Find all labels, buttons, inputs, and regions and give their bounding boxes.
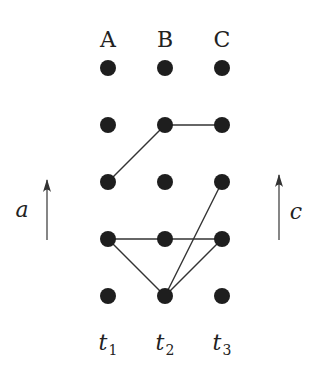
graph-node [214, 117, 230, 133]
graph-node [157, 174, 173, 190]
graph-node [214, 288, 230, 304]
right-axis-label-c: c [290, 201, 302, 223]
diagram-canvas: A B C t1 t2 t3 a c [0, 0, 320, 371]
graph-node [157, 288, 173, 304]
time-label-t3: t3 [213, 332, 232, 357]
graph-node [100, 288, 116, 304]
graph-node [100, 231, 116, 247]
edge-line [165, 239, 222, 296]
graph-node [214, 174, 230, 190]
column-label-a: A [100, 29, 116, 51]
graph-node [157, 231, 173, 247]
graph-node [157, 60, 173, 76]
left-axis-label-a: a [15, 199, 28, 221]
time-label-t2: t2 [156, 332, 175, 357]
edge-line [108, 125, 165, 182]
graph-node [100, 60, 116, 76]
graph-node [100, 174, 116, 190]
column-label-b: B [157, 29, 173, 51]
graph-node [214, 231, 230, 247]
edge-line [108, 239, 165, 296]
graph-node [214, 60, 230, 76]
graph-node [157, 117, 173, 133]
column-label-c: C [214, 29, 231, 51]
time-label-t1: t1 [99, 332, 118, 357]
graph-node [100, 117, 116, 133]
graph-svg [0, 0, 320, 371]
